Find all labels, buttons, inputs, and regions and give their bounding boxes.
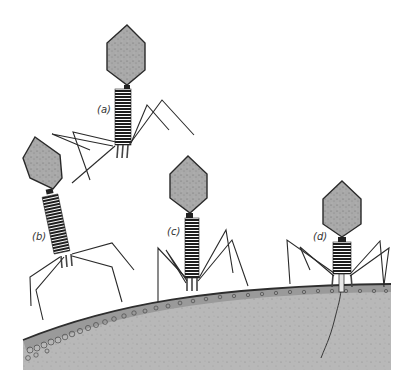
- bacterial-cell: [23, 284, 391, 370]
- phage-b-baseplate-pins: [61, 254, 72, 268]
- phage-b: [23, 137, 134, 320]
- phage-b-collar: [46, 188, 54, 194]
- phage-a-collar: [124, 85, 130, 89]
- phage-c-head: [170, 156, 207, 213]
- phage-d-contracted-sheath: [333, 242, 351, 274]
- phage-b-tail-fibers: [30, 243, 134, 320]
- diagram-canvas: [0, 0, 412, 388]
- phage-a-tail-sheath: [115, 89, 131, 145]
- phage-c-baseplate-pins: [187, 278, 197, 291]
- phage-d-collar: [338, 237, 346, 242]
- phage-a: [52, 25, 194, 183]
- phage-c-tail-sheath: [185, 218, 199, 278]
- phage-d: [287, 181, 389, 292]
- label-a: (a): [97, 105, 111, 115]
- phage-c-collar: [186, 213, 193, 218]
- phage-d-tail-core: [339, 274, 344, 292]
- label-d: (d): [313, 232, 327, 242]
- phage-infection-diagram: (a) (b) (c) (d): [0, 0, 412, 388]
- phage-d-head: [323, 181, 361, 237]
- label-c: (c): [167, 227, 180, 237]
- label-b: (b): [32, 232, 46, 242]
- phage-b-tail-sheath: [42, 194, 70, 254]
- phage-a-head: [107, 25, 145, 85]
- phage-a-baseplate-pins: [117, 145, 128, 158]
- phage-b-head: [23, 137, 62, 189]
